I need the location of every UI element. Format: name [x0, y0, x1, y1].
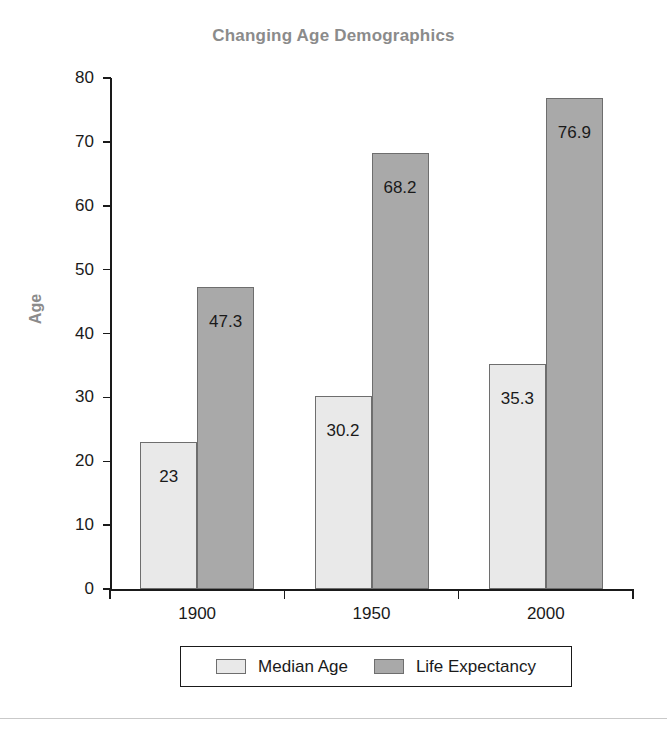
x-tick-label: 2000 — [486, 604, 606, 624]
legend-label: Life Expectancy — [416, 657, 536, 677]
bar-value-label: 23 — [141, 467, 196, 487]
y-tick-label: 30 — [48, 387, 94, 407]
y-axis-label: Age — [27, 269, 45, 349]
bar-1900-life-expectancy[interactable]: 47.3 — [197, 287, 254, 589]
bar-1950-median-age[interactable]: 30.2 — [315, 396, 372, 589]
legend-swatch-icon — [374, 659, 404, 674]
chart-title: Changing Age Demographics — [0, 26, 667, 46]
x-tick-label: 1950 — [312, 604, 432, 624]
chart-legend: Median AgeLife Expectancy — [180, 646, 572, 687]
bar-value-label: 68.2 — [373, 178, 428, 198]
x-tick-mark — [284, 590, 286, 599]
y-tick-label: 60 — [48, 196, 94, 216]
x-tick-mark — [109, 590, 111, 599]
y-tick-label: 80 — [48, 68, 94, 88]
y-tick-label: 70 — [48, 132, 94, 152]
bar-value-label: 35.3 — [490, 389, 545, 409]
x-axis-line — [110, 589, 634, 591]
y-tick-label: 40 — [48, 324, 94, 344]
plot-area: 2347.330.268.235.376.9 — [110, 78, 633, 589]
bar-1950-life-expectancy[interactable]: 68.2 — [372, 153, 429, 589]
x-tick-label: 1900 — [137, 604, 257, 624]
legend-entry-median-age[interactable]: Median Age — [216, 657, 348, 677]
bar-value-label: 47.3 — [198, 312, 253, 332]
x-tick-mark — [458, 590, 460, 599]
bar-chart-figure: Changing Age Demographics Age 0102030405… — [0, 0, 667, 732]
y-tick-label: 0 — [48, 579, 94, 599]
bar-2000-life-expectancy[interactable]: 76.9 — [546, 98, 603, 589]
y-tick-label: 20 — [48, 451, 94, 471]
bar-value-label: 76.9 — [547, 123, 602, 143]
legend-label: Median Age — [258, 657, 348, 677]
bottom-divider — [0, 718, 667, 719]
legend-swatch-icon — [216, 659, 246, 674]
legend-entry-life-expectancy[interactable]: Life Expectancy — [374, 657, 536, 677]
y-tick-label: 10 — [48, 515, 94, 535]
bar-2000-median-age[interactable]: 35.3 — [489, 364, 546, 589]
bar-1900-median-age[interactable]: 23 — [140, 442, 197, 589]
bar-value-label: 30.2 — [316, 421, 371, 441]
y-tick-label: 50 — [48, 260, 94, 280]
x-tick-mark — [632, 590, 634, 599]
